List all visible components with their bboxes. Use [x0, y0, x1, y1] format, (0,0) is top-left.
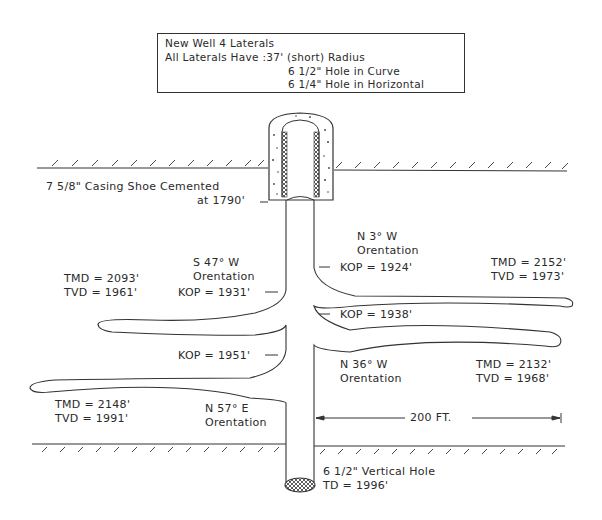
- lateral-n36w-tvd: TVD = 1968': [476, 372, 549, 385]
- lateral-n57e-kop: KOP = 1951': [178, 349, 250, 362]
- lateral-sw-orientation-label: Orentation: [193, 270, 255, 283]
- lateral-n57e-orientation-label: Orentation: [205, 416, 267, 429]
- info-title: New Well 4 Laterals: [165, 37, 274, 50]
- lateral-sw-tmd: TMD = 2093': [64, 272, 139, 285]
- casing-cement: [269, 113, 333, 200]
- vertical-wellbore: [30, 200, 573, 492]
- lateral-n3w-orientation: N 3° W: [357, 230, 397, 243]
- scale-label: 200 FT.: [410, 411, 452, 424]
- lateral-sw-orientation: S 47° W: [193, 256, 239, 269]
- casing-shoe-label: 7 5/8" Casing Shoe Cemented: [46, 180, 219, 193]
- lateral-n36w-orientation: N 36° W: [340, 358, 388, 371]
- info-horizontal-hole: 6 1/4" Hole in Horizontal: [288, 78, 424, 91]
- lateral-n3w-orientation-label: Orentation: [357, 244, 419, 257]
- lateral-n3w-kop: KOP = 1924': [340, 261, 412, 274]
- total-depth-label: TD = 1996': [323, 479, 388, 492]
- well-info-box: New Well 4 Laterals All Laterals Have :3…: [157, 33, 465, 93]
- lateral-n36w-kop: KOP = 1938': [340, 308, 412, 321]
- lateral-n57e-tvd: TVD = 1991': [55, 412, 128, 425]
- lateral-n57e-tmd: TMD = 2148': [55, 398, 130, 411]
- casing-depth-label: at 1790': [197, 194, 245, 207]
- info-radius: All Laterals Have :37' (short) Radius: [165, 51, 365, 64]
- lateral-n36w-tmd: TMD = 2132': [476, 358, 551, 371]
- vertical-hole-label: 6 1/2" Vertical Hole: [323, 465, 435, 478]
- lower-formation-line: [32, 444, 565, 454]
- info-curve-hole: 6 1/2" Hole in Curve: [288, 65, 400, 78]
- lateral-n3w-tvd: TVD = 1973': [491, 270, 564, 283]
- lateral-n3w-tmd: TMD = 2152': [491, 256, 566, 269]
- lateral-sw-kop: KOP = 1931': [178, 286, 250, 299]
- lateral-n36w-orientation-label: Orentation: [340, 372, 402, 385]
- lateral-sw-tvd: TVD = 1961': [64, 286, 137, 299]
- lateral-n57e-orientation: N 57° E: [205, 402, 249, 415]
